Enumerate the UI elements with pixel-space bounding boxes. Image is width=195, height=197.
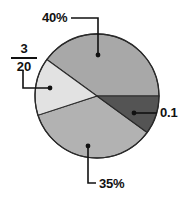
leader-dot-40-percent (96, 53, 101, 58)
slice-label-40-percent: 40% (42, 10, 67, 25)
pie-chart-figure: 40% 3 20 0.1 35% (0, 0, 195, 197)
fraction-denominator: 20 (11, 60, 37, 74)
leader-dot-three-twentieths (48, 86, 53, 91)
fraction-numerator: 3 (11, 42, 37, 56)
slice-label-35-percent: 35% (99, 176, 124, 191)
slice-label-zero-point-one: 0.1 (160, 105, 177, 120)
pie-chart-svg (0, 0, 195, 197)
leader-dot-zero-point-one (132, 111, 137, 116)
leader-dot-35-percent (86, 144, 91, 149)
slice-label-three-twentieths: 3 20 (11, 42, 37, 73)
